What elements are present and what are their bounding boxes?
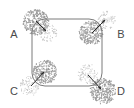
corner-label-c: C bbox=[10, 85, 18, 97]
corner-label-d: D bbox=[117, 85, 125, 97]
diagram-canvas: ABCD bbox=[0, 0, 134, 108]
corner-label-b: B bbox=[117, 28, 124, 40]
stipple-blob-d-outer bbox=[90, 78, 116, 104]
corner-label-a: A bbox=[10, 28, 18, 40]
figure-container: ABCD bbox=[0, 0, 134, 108]
